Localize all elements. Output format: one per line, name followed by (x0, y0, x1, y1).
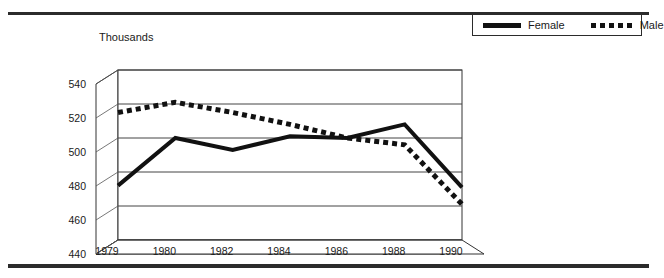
x-axis-tick-label: 1980 (138, 246, 190, 257)
y-axis-tick-label: 460 (52, 215, 86, 225)
x-axis-tick-label: 1988 (368, 246, 420, 257)
y-axis-tick-label: 500 (52, 147, 86, 157)
x-axis-tick-label: 1986 (310, 246, 362, 257)
y-axis-tick-label: 540 (52, 79, 86, 89)
x-axis-tick-label: 1984 (253, 246, 305, 257)
y-axis-tick-label: 520 (52, 113, 86, 123)
x-axis-tick-label: 1990 (425, 246, 477, 257)
chart-3d-walls (96, 70, 484, 254)
x-axis-tick-label: 1982 (196, 246, 248, 257)
y-axis-tick-label: 480 (52, 181, 86, 191)
x-axis-tick-label: 1979 (81, 246, 133, 257)
